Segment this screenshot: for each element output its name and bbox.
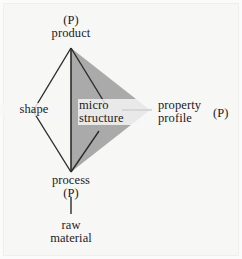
node-label-property-profile: property profile — [158, 99, 214, 125]
microstructure-label-line2: structure — [79, 112, 151, 125]
raw-material-label-line2: material — [0, 232, 142, 245]
shape-label: shape — [1, 103, 67, 116]
property-profile-label-line2: profile — [158, 112, 214, 125]
node-label-shape: shape — [0, 103, 68, 116]
node-label-microstructure: micro structure — [78, 99, 152, 125]
node-label-process: process (P) — [0, 174, 142, 200]
node-label-raw-material: raw material — [0, 219, 142, 245]
figure-container: (P) product shape micro structure proper… — [0, 0, 242, 259]
product-label: product — [0, 27, 142, 40]
edge-shape-process — [33, 111, 71, 172]
property-profile-marker: (P) — [213, 107, 239, 120]
node-label-product: (P) product — [0, 14, 142, 40]
process-marker: (P) — [0, 187, 142, 200]
